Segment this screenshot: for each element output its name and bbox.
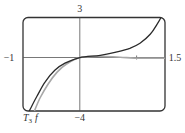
legend-f-label: f xyxy=(35,112,39,123)
y-min-label: −4 xyxy=(74,112,85,123)
x-min-label: −1 xyxy=(4,52,15,63)
plot-frame xyxy=(23,18,165,112)
x-max-label: 1.5 xyxy=(169,52,182,63)
curve-f xyxy=(34,56,165,111)
legend-t3-label: T3 xyxy=(23,112,33,125)
chart-canvas: 3 −4 −1 1.5 T3 f xyxy=(0,0,185,133)
y-max-label: 3 xyxy=(77,3,82,14)
curve-t3 xyxy=(29,18,161,112)
